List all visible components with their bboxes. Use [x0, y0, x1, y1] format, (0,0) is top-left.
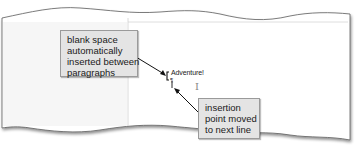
document-figure: Adventure! ¶ I blank space automatically… — [0, 0, 355, 150]
callout-insertion-point: insertion point moved to next line — [198, 98, 260, 139]
callout-line: paragraphs — [67, 67, 131, 78]
callout-line: blank space — [67, 34, 131, 45]
callout-line: to next line — [205, 124, 253, 135]
callout-line: inserted between — [67, 56, 131, 67]
callout-line: point moved — [205, 113, 253, 124]
paragraph-mark: ¶ — [170, 77, 173, 83]
ibeam-cursor-icon: I — [195, 81, 199, 92]
callout-blank-space: blank space automatically inserted betwe… — [60, 30, 138, 77]
callout-line: insertion — [205, 102, 253, 113]
callout-line: automatically — [67, 45, 131, 56]
document-text-line: Adventure! — [171, 69, 204, 76]
